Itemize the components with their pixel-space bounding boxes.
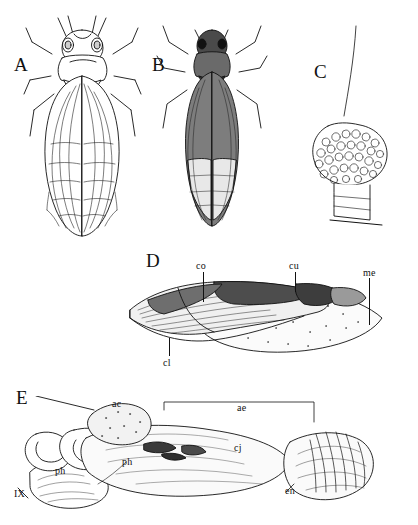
panel-letter-c: C (314, 62, 327, 81)
panel-letter-d: D (146, 251, 160, 270)
panel-e-illustration (14, 396, 406, 521)
label-me: me (363, 268, 376, 278)
leader-cu (295, 272, 296, 292)
label-ph-upper: ph (122, 457, 132, 467)
panel-c-illustration (286, 20, 406, 235)
label-en: en (285, 486, 295, 496)
leader-me (369, 278, 370, 325)
label-ac: ac (112, 399, 121, 409)
panel-b-illustration (155, 20, 270, 235)
label-ix: IX (14, 489, 25, 499)
label-cl: cl (163, 358, 171, 368)
panel-a-illustration (18, 14, 148, 244)
panel-letter-b: B (152, 55, 165, 74)
panel-letter-a: A (14, 55, 28, 74)
label-cj: cj (234, 443, 242, 453)
panel-letter-e: E (16, 388, 28, 407)
leader-cl (169, 338, 170, 356)
leader-co (203, 272, 204, 302)
panel-d-illustration (118, 262, 408, 372)
figure-plate: A (0, 0, 418, 525)
label-cu: cu (289, 261, 299, 271)
label-co: co (196, 261, 206, 271)
label-ae: ae (237, 403, 246, 413)
label-ph-lower: ph (55, 466, 65, 476)
